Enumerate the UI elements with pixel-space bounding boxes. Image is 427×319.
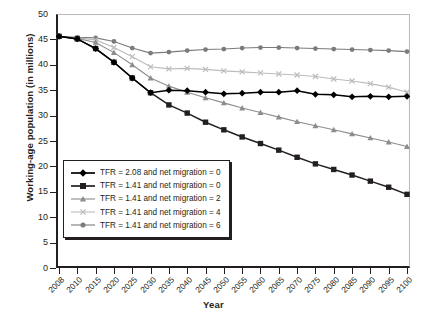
y-tick-label: 20 (8, 162, 48, 171)
legend-label: TFR = 1.41 and net migration = 2 (96, 194, 221, 203)
y-tick (50, 116, 56, 117)
x-tick (334, 268, 335, 274)
legend-marker-icon (70, 167, 96, 179)
y-tick (50, 268, 56, 269)
legend-item: TFR = 1.41 and net migration = 4 (70, 206, 221, 219)
y-tick-label: 35 (8, 86, 48, 95)
series-0 (56, 33, 410, 100)
y-tick-label: 15 (8, 187, 48, 196)
x-tick (114, 268, 115, 274)
series-3 (56, 34, 409, 95)
y-tick-label: 50 (8, 10, 48, 19)
y-tick (50, 192, 56, 193)
x-tick (169, 268, 170, 274)
line-chart: Working-age population (in millions) 051… (0, 0, 427, 319)
y-tick-label: 10 (8, 213, 48, 222)
chart-legend: TFR = 2.08 and net migration = 0TFR = 1.… (63, 160, 230, 238)
x-tick (242, 268, 243, 274)
legend-item: TFR = 1.41 and net migration = 2 (70, 192, 221, 205)
legend-label: TFR = 1.41 and net migration = 0 (96, 181, 221, 190)
x-tick (352, 268, 353, 274)
y-tick-label: 5 (8, 238, 48, 247)
legend-label: TFR = 2.08 and net migration = 0 (96, 168, 221, 177)
x-tick (206, 268, 207, 274)
x-tick (279, 268, 280, 274)
y-tick (50, 217, 56, 218)
x-tick (389, 268, 390, 274)
y-tick (50, 141, 56, 142)
x-tick (315, 268, 316, 274)
y-axis-labels: 05101520253035404550 (8, 14, 48, 268)
x-tick (370, 268, 371, 274)
legend-item: TFR = 1.41 and net migration = 6 (70, 219, 221, 232)
y-tick-label: 0 (8, 264, 48, 273)
x-tick (151, 268, 152, 274)
x-tick (260, 268, 261, 274)
legend-marker-icon (70, 193, 96, 205)
x-tick (77, 268, 78, 274)
legend-marker-icon (70, 219, 96, 231)
y-tick-label: 45 (8, 35, 48, 44)
y-tick (50, 39, 56, 40)
x-tick (132, 268, 133, 274)
y-tick (50, 243, 56, 244)
x-tick (297, 268, 298, 274)
series-2 (56, 33, 410, 149)
y-tick (50, 90, 56, 91)
legend-item: TFR = 2.08 and net migration = 0 (70, 166, 221, 179)
y-tick (50, 166, 56, 167)
legend-label: TFR = 1.41 and net migration = 4 (96, 208, 221, 217)
x-axis-title: Year (0, 299, 427, 310)
y-tick-label: 25 (8, 137, 48, 146)
legend-label: TFR = 1.41 and net migration = 6 (96, 221, 221, 230)
x-tick (59, 268, 60, 274)
x-tick (187, 268, 188, 274)
y-tick-label: 40 (8, 60, 48, 69)
x-tick (224, 268, 225, 274)
legend-marker-icon (70, 180, 96, 192)
x-tick (96, 268, 97, 274)
series-4 (57, 34, 410, 56)
y-tick-label: 30 (8, 111, 48, 120)
legend-marker-icon (70, 206, 96, 218)
y-tick (50, 65, 56, 66)
legend-item: TFR = 1.41 and net migration = 0 (70, 179, 221, 192)
x-tick (407, 268, 408, 274)
